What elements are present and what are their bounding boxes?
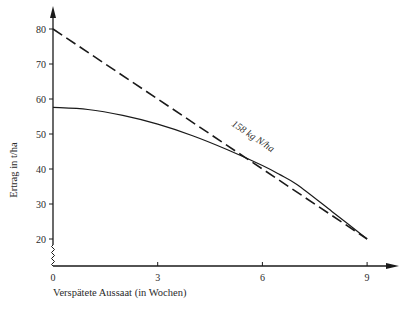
y-tick-label: 70 (36, 59, 46, 70)
x-tick-label: 3 (155, 272, 160, 283)
y-tick-label: 20 (36, 234, 46, 245)
data-series (53, 29, 367, 239)
y-tick-label: 40 (36, 164, 46, 175)
x-axis-label: Verspätete Aussaat (in Wochen) (53, 287, 187, 299)
x-tick-label: 6 (260, 272, 265, 283)
y-axis-label: Ertrag in t/ha (8, 142, 19, 198)
y-tick-label: 50 (36, 129, 46, 140)
y-axis-break (52, 245, 55, 266)
tick-marks: 203040506070800369 (36, 24, 370, 284)
x-tick-label: 9 (365, 272, 370, 283)
yield-chart: 203040506070800369 158 kg N/ha Ertrag in… (0, 0, 411, 310)
x-tick-label: 0 (51, 272, 56, 283)
y-axis-arrow-icon (50, 6, 56, 18)
y-tick-label: 30 (36, 199, 46, 210)
annotation-label: 158 kg N/ha (230, 118, 277, 154)
x-axis-arrow-icon (386, 263, 399, 269)
y-tick-label: 80 (36, 24, 46, 35)
series-158-kg-n-dashed (53, 29, 367, 239)
axes (50, 6, 399, 269)
y-tick-label: 60 (36, 94, 46, 105)
series-solid-curve (53, 107, 367, 239)
